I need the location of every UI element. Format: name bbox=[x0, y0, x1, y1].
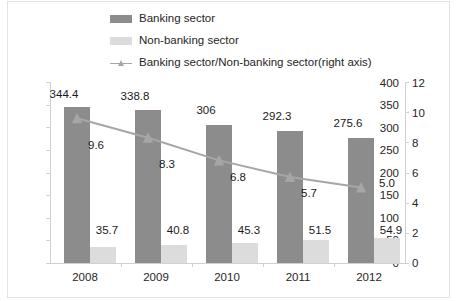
value-label-banking-2008: 344.4 bbox=[39, 89, 89, 101]
tick-right-12 bbox=[405, 82, 409, 83]
value-label-ratio-2011: 5.7 bbox=[301, 188, 337, 200]
x-axis-label-2008: 2008 bbox=[55, 272, 115, 284]
value-label-banking-2010: 306 bbox=[181, 105, 231, 117]
value-label-ratio-2009: 8.3 bbox=[159, 159, 195, 171]
y-axis-right-tick-12: 12 bbox=[412, 78, 442, 90]
value-label-ratio-2012: 5.0 bbox=[379, 178, 415, 190]
chart-legend: Banking sector Non-banking sector Bankin… bbox=[110, 8, 440, 74]
ratio-line-path bbox=[77, 118, 361, 187]
value-label-banking-2011: 292.3 bbox=[252, 111, 302, 123]
legend-label-ratio: Banking sector/Non-banking sector(right … bbox=[139, 57, 372, 69]
x-axis-label-2012: 2012 bbox=[339, 272, 399, 284]
tick-right-10 bbox=[405, 112, 409, 113]
tick-right-0 bbox=[405, 263, 409, 264]
y-axis-right-tick-0: 0 bbox=[412, 258, 442, 270]
ratio-marker-2008-icon bbox=[72, 113, 82, 124]
value-label-nonbanking-2010: 45.3 bbox=[227, 225, 271, 237]
tick-x-4 bbox=[334, 263, 335, 267]
legend-swatch-dark-icon bbox=[110, 15, 132, 23]
tick-x-3 bbox=[263, 263, 264, 267]
value-label-banking-2009: 338.8 bbox=[110, 91, 160, 103]
value-label-banking-2012: 275.6 bbox=[323, 118, 373, 130]
legend-label-banking-sector: Banking sector bbox=[139, 13, 215, 25]
tick-x-1 bbox=[121, 263, 122, 267]
legend-item-non-banking-sector[interactable]: Non-banking sector bbox=[110, 30, 440, 52]
x-axis-label-2009: 2009 bbox=[126, 272, 186, 284]
value-label-nonbanking-2008: 35.7 bbox=[85, 225, 129, 237]
y-axis-right-tick-4: 4 bbox=[412, 198, 442, 210]
tick-right-6 bbox=[405, 173, 409, 174]
value-label-ratio-2010: 6.8 bbox=[230, 172, 266, 184]
legend-label-non-banking-sector: Non-banking sector bbox=[139, 35, 239, 47]
y-axis-right-tick-2: 2 bbox=[412, 228, 442, 240]
x-axis-label-2010: 2010 bbox=[197, 272, 257, 284]
value-label-nonbanking-2012: 54.9 bbox=[369, 225, 413, 237]
chart-container: Banking sector Non-banking sector Bankin… bbox=[0, 0, 457, 301]
value-label-nonbanking-2011: 51.5 bbox=[298, 225, 342, 237]
value-label-nonbanking-2009: 40.8 bbox=[156, 225, 200, 237]
legend-item-banking-sector[interactable]: Banking sector bbox=[110, 8, 440, 30]
tick-right-8 bbox=[405, 142, 409, 143]
y-axis-right-tick-6: 6 bbox=[412, 168, 442, 180]
tick-x-2 bbox=[192, 263, 193, 267]
y-axis-right-tick-10: 10 bbox=[412, 108, 442, 120]
x-axis-label-2011: 2011 bbox=[268, 272, 328, 284]
y-axis-right-tick-8: 8 bbox=[412, 138, 442, 150]
value-label-ratio-2008: 9.6 bbox=[88, 140, 124, 152]
tick-right-4 bbox=[405, 203, 409, 204]
legend-item-ratio[interactable]: Banking sector/Non-banking sector(right … bbox=[110, 52, 440, 74]
tick-left-0 bbox=[46, 263, 50, 264]
legend-line-triangle-icon bbox=[110, 59, 132, 68]
legend-swatch-light-icon bbox=[110, 37, 132, 45]
